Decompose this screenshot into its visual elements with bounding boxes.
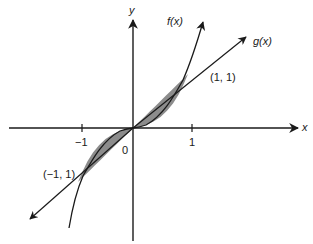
f-label: f(x)	[167, 16, 183, 27]
f-label-text: f(x)	[167, 15, 183, 27]
tick-label-0: 0	[122, 145, 128, 156]
point-label-lower: (−1, 1)	[43, 169, 75, 180]
point-label-upper: (1, 1)	[210, 72, 236, 83]
tick-label-1: 1	[189, 137, 195, 148]
y-axis-label: y	[129, 5, 135, 16]
g-label: g(x)	[253, 36, 272, 47]
tick-label-neg1: −1	[75, 137, 88, 148]
shaded-region-right	[133, 74, 188, 128]
g-label-text: g(x)	[253, 35, 272, 47]
x-axis-label: x	[302, 122, 308, 133]
